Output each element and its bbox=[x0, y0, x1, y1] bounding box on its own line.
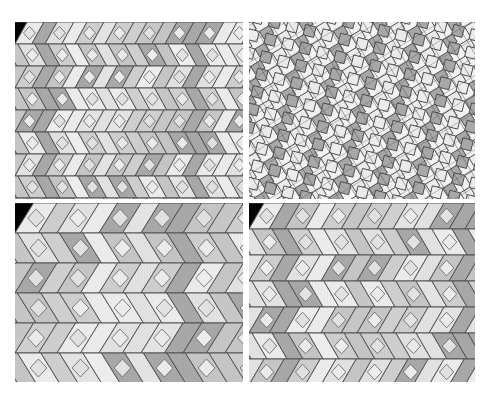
tiling-panel-bottom-right bbox=[249, 203, 475, 382]
tiling-canvas-bottom-right bbox=[249, 203, 475, 382]
tiling-panel-top-right bbox=[249, 22, 475, 199]
tiling-canvas-bottom-left bbox=[15, 203, 243, 382]
tiling-canvas-top-left bbox=[15, 22, 243, 199]
tiling-panel-top-left bbox=[15, 22, 243, 199]
tiling-panel-bottom-left bbox=[15, 203, 243, 382]
tiling-canvas-top-right bbox=[249, 22, 475, 199]
tiling-figure bbox=[0, 0, 490, 403]
